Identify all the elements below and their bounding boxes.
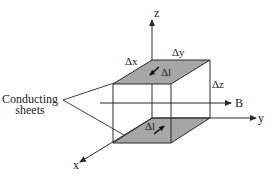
bottom-sheet [113, 118, 210, 143]
z-axis-label: z [154, 6, 159, 20]
dy-label: Δy [172, 46, 185, 58]
b-field-label: B [235, 96, 243, 110]
diagram-canvas: z y x B Δx Δy Δz Δl Δl Conducting sheets [0, 0, 272, 178]
dx-label: Δx [125, 55, 138, 67]
callout-line-top [63, 83, 114, 100]
dz-label: Δz [212, 78, 224, 90]
x-axis-label: x [73, 158, 79, 172]
bottom-current-label: Δl [145, 120, 155, 132]
callout-label-line2: sheets [15, 103, 45, 117]
top-current-label: Δl [161, 66, 171, 78]
y-axis-label: y [258, 111, 264, 125]
callout-line-bottom [63, 100, 124, 135]
conducting-sheets-diagram: z y x B Δx Δy Δz Δl Δl Conducting sheets [0, 0, 272, 178]
